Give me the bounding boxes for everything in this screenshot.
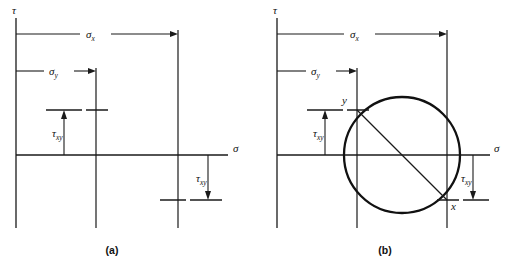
- figure-canvas: σx σy τxy σ τ: [0, 0, 509, 270]
- panel-b-tau-xy-lower-label: τxy: [461, 172, 472, 187]
- panel-a: σx σy τxy σ τ: [12, 4, 239, 256]
- point-y-label: y: [341, 94, 347, 106]
- panel-b-sigma-axis-label: σ: [494, 142, 500, 154]
- panel-b-tau-axis-label: τ: [273, 4, 278, 16]
- panel-a-sigma-y-label: σy: [49, 65, 58, 80]
- panel-a-tau-lower-arrowhead: [205, 191, 211, 200]
- panel-a-sigma-x-arrowhead: [170, 31, 178, 37]
- panel-a-sigma-axis-label: σ: [233, 142, 239, 154]
- panel-b-sigma-x-arrowhead: [439, 31, 447, 37]
- point-x-label: x: [450, 200, 456, 212]
- panel-a-sigma-x-label: σx: [86, 28, 95, 43]
- panel-a-caption: (a): [106, 244, 119, 256]
- mohr-circle-figure: σx σy τxy σ τ: [0, 0, 509, 270]
- panel-b-sigma-y-arrowhead: [349, 68, 357, 74]
- panel-a-tau-axis-label: τ: [12, 4, 17, 16]
- panel-b-sigma-y-label: σy: [311, 65, 320, 80]
- panel-b-tau-lower-arrowhead: [470, 191, 476, 200]
- panel-b-caption: (b): [378, 244, 391, 256]
- panel-a-sigma-y-arrowhead: [88, 68, 96, 74]
- panel-a-tau-xy-lower-label: τxy: [196, 172, 207, 187]
- panel-a-tau-xy-upper-label: τxy: [52, 127, 63, 142]
- panel-b-sigma-x-label: σx: [350, 28, 359, 43]
- panel-b-tau-upper-arrowhead: [322, 110, 328, 119]
- panel-b-tau-xy-upper-label: τxy: [313, 127, 324, 142]
- panel-b: σx σy τxy: [273, 4, 500, 256]
- panel-a-tau-upper-arrowhead: [61, 110, 67, 119]
